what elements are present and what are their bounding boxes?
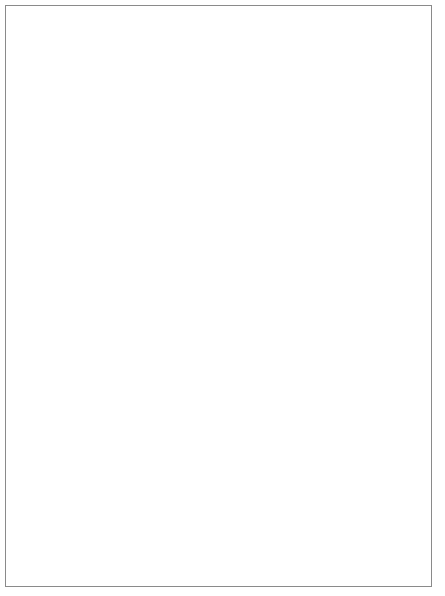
figure-root	[0, 0, 445, 596]
top-chart-svg	[0, 0, 445, 296]
chart-panel-top	[0, 0, 445, 296]
chart-panel-bottom	[0, 296, 445, 596]
bottom-chart-svg	[0, 296, 445, 596]
